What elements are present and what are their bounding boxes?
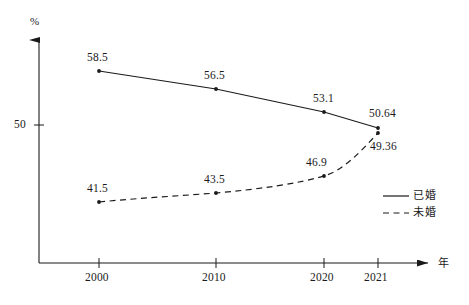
data-point-unmarried-2010 (214, 191, 218, 195)
series-line-unmarried (99, 133, 378, 202)
series-line-married (99, 71, 378, 128)
x-tick-label-2020: 2020 (310, 272, 334, 284)
chart-canvas (0, 0, 469, 305)
x-tick-label-2021: 2021 (364, 272, 388, 284)
data-point-married-2000 (97, 69, 101, 73)
value-label-unmarried-2000: 41.5 (87, 183, 108, 195)
data-point-unmarried-2020 (322, 174, 326, 178)
value-label-married-2020: 53.1 (313, 93, 334, 105)
data-point-married-2020 (322, 110, 326, 114)
x-axis-label: 年 (438, 258, 450, 269)
data-point-married-2021 (376, 126, 380, 130)
y-tick-label-50: 50 (14, 119, 26, 131)
legend-label-married: 已婚 (413, 190, 436, 201)
x-tick-label-2010: 2010 (202, 272, 226, 284)
value-label-married-2000: 58.5 (87, 52, 108, 64)
y-axis-label: % (30, 16, 39, 27)
value-label-unmarried-2021: 49.36 (370, 141, 397, 153)
line-chart: % 年 50 2000 2010 2020 2021 58.5 56.5 53.… (0, 0, 469, 305)
data-point-married-2010 (214, 87, 218, 91)
data-point-unmarried-2000 (97, 200, 101, 204)
legend-label-unmarried: 未婚 (413, 207, 436, 218)
data-point-unmarried-2021 (376, 131, 380, 135)
x-tick-label-2000: 2000 (85, 272, 109, 284)
value-label-unmarried-2010: 43.5 (204, 174, 225, 186)
value-label-married-2010: 56.5 (204, 70, 225, 82)
value-label-unmarried-2020: 46.9 (306, 157, 327, 169)
value-label-married-2021: 50.64 (369, 108, 396, 120)
